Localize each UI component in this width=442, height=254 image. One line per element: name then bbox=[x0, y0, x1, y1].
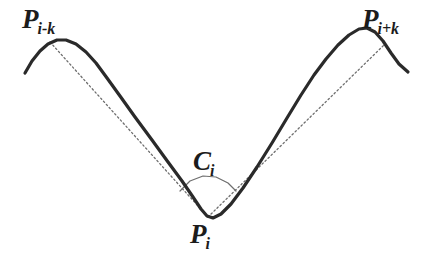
label-p-i-plus-k-base: P bbox=[362, 4, 379, 34]
label-p-i-minus-k: Pi-k bbox=[22, 6, 56, 33]
label-p-i-base: P bbox=[190, 219, 207, 249]
chord-right-dotted-line bbox=[208, 44, 385, 217]
label-p-i-subscript: i bbox=[206, 235, 210, 252]
label-p-i-minus-k-base: P bbox=[22, 4, 39, 34]
label-c-i-base: C bbox=[193, 146, 211, 176]
signal-curve bbox=[25, 28, 408, 218]
curvature-diagram: Pi-k Pi+k Ci Pi bbox=[0, 0, 442, 254]
label-p-i-minus-k-subscript: i-k bbox=[38, 20, 56, 37]
chord-left-dotted-line bbox=[50, 42, 208, 217]
label-p-i-plus-k: Pi+k bbox=[362, 6, 400, 33]
diagram-canvas bbox=[0, 0, 442, 254]
label-c-i-subscript: i bbox=[210, 162, 214, 179]
label-p-i: Pi bbox=[190, 221, 211, 248]
label-p-i-plus-k-subscript: i+k bbox=[378, 20, 400, 37]
label-c-i: Ci bbox=[193, 148, 215, 175]
